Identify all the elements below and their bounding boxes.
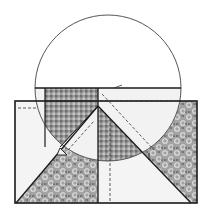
quilt-diagram bbox=[0, 0, 207, 219]
